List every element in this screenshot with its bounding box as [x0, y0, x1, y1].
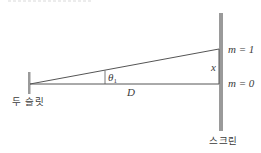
angle-label: θ1 — [108, 72, 117, 85]
order-0-label: m = 0 — [228, 78, 254, 89]
slits-label: 두 슬릿 — [12, 97, 44, 107]
diagram-canvas — [0, 0, 261, 153]
ray-to-m1 — [30, 49, 219, 84]
screen-label: 스크린 — [209, 136, 238, 146]
screen-bar — [219, 13, 223, 131]
angle-subscript: 1 — [113, 77, 117, 85]
distance-label: D — [127, 87, 135, 98]
slit-barrier — [28, 72, 31, 94]
order-1-label: m = 1 — [228, 44, 254, 55]
offset-label: x — [211, 62, 216, 73]
double-slit-diagram: 두 슬릿 스크린 D θ1 x m = 1 m = 0 — [0, 0, 261, 153]
